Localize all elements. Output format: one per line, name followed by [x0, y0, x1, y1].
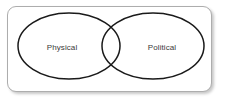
venn-label-political: Political: [148, 43, 176, 53]
venn-diagram-screenshot: Physical Political: [0, 0, 225, 102]
diagram-panel: [7, 6, 212, 92]
venn-label-physical: Physical: [47, 43, 78, 53]
